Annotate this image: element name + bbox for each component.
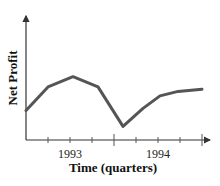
chart: 1993 1994 Time (quarters) Net Profit xyxy=(0,0,220,186)
x-axis-title: Time (quarters) xyxy=(69,160,157,175)
x-tick-label-1993: 1993 xyxy=(58,147,82,161)
net-profit-line xyxy=(26,77,202,127)
y-axis-title: Net Profit xyxy=(5,50,20,106)
x-tick-label-1994: 1994 xyxy=(146,147,170,161)
